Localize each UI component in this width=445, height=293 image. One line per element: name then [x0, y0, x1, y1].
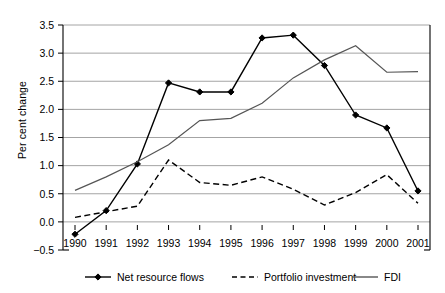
- x-tick-label: 1990: [63, 237, 87, 249]
- legend-label: Portfolio investment: [264, 271, 356, 283]
- x-tick-label: 1996: [250, 237, 274, 249]
- y-tick-label: 0.5: [39, 188, 54, 200]
- x-tick-label: 2000: [375, 237, 399, 249]
- x-tick-label: 1994: [188, 237, 212, 249]
- y-tick-label: 0.0: [39, 216, 54, 228]
- data-point-marker: [197, 89, 203, 95]
- legend-diamond-marker: [95, 274, 101, 280]
- y-tick-label: 3.5: [39, 19, 54, 31]
- y-tick-label: 2.5: [39, 75, 54, 87]
- x-tick-label: 1998: [313, 237, 337, 249]
- x-tick-label: 1995: [219, 237, 243, 249]
- y-tick-label: 1.5: [39, 131, 54, 143]
- y-tick-label: 2.0: [39, 103, 54, 115]
- series-line: [75, 35, 418, 234]
- legend-label: Net resource flows: [117, 271, 204, 283]
- series-line: [75, 160, 418, 217]
- x-axis-ticks-group: 1990199119921993199419951996199719981999…: [63, 225, 430, 249]
- x-tick-label: 1999: [344, 237, 368, 249]
- chart-legend: Net resource flowsPortfolio investmentFD…: [85, 271, 401, 283]
- data-point-marker: [415, 188, 421, 194]
- data-point-marker: [259, 35, 265, 41]
- y-tick-label: 1.0: [39, 159, 54, 171]
- x-tick-label: 1993: [157, 237, 181, 249]
- chart-container: Per cent change −0.50.00.51.01.52.02.53.…: [0, 0, 445, 293]
- x-tick-label: 2001: [406, 237, 430, 249]
- y-tick-label: 3.0: [39, 47, 54, 59]
- y-tick-label: −0.5: [33, 244, 54, 256]
- x-tick-label: 1991: [95, 237, 119, 249]
- y-axis-ticks-group: −0.50.00.51.01.52.02.53.03.5: [33, 19, 63, 256]
- data-point-marker: [228, 89, 234, 95]
- line-chart-plot: −0.50.00.51.01.52.02.53.03.5 19901991199…: [0, 0, 445, 293]
- legend-label: FDI: [384, 271, 401, 283]
- series-lines-group: [72, 32, 421, 237]
- data-point-marker: [384, 125, 390, 131]
- data-point-marker: [165, 80, 171, 86]
- series-line: [75, 46, 418, 191]
- x-tick-label: 1997: [282, 237, 306, 249]
- x-tick-label: 1992: [126, 237, 150, 249]
